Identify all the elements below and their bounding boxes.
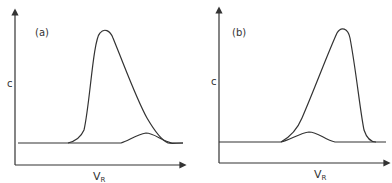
- major-peak-curve: [281, 29, 376, 142]
- panel-b: (b) c VR: [211, 10, 387, 182]
- minor-peak-curve: [219, 132, 386, 142]
- panel-label: (a): [35, 27, 49, 38]
- x-axis-label: VR: [93, 170, 106, 183]
- panel-label: (b): [232, 27, 246, 38]
- chromatogram-figure: (a) c VR (b) c VR: [0, 0, 392, 183]
- panel-a: (a) c VR: [7, 12, 183, 183]
- major-peak-curve: [68, 30, 183, 143]
- y-axis-label: c: [211, 76, 217, 87]
- x-axis-label: VR: [314, 168, 327, 182]
- y-axis-label: c: [7, 78, 13, 89]
